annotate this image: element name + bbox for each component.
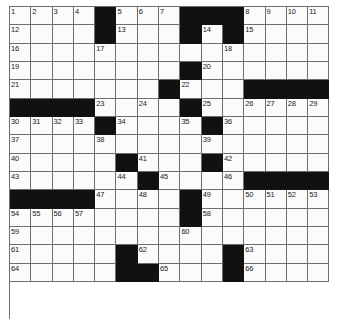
- crossword-cell[interactable]: 53: [308, 190, 329, 208]
- crossword-cell[interactable]: [95, 209, 116, 227]
- crossword-cell[interactable]: [202, 172, 223, 190]
- crossword-cell[interactable]: 14: [202, 25, 223, 43]
- crossword-cell[interactable]: [53, 172, 74, 190]
- crossword-cell[interactable]: [31, 227, 52, 245]
- crossword-cell[interactable]: [266, 25, 287, 43]
- crossword-cell[interactable]: [95, 227, 116, 245]
- crossword-cell[interactable]: 40: [10, 154, 31, 172]
- crossword-cell[interactable]: 33: [74, 117, 95, 135]
- crossword-cell[interactable]: [74, 227, 95, 245]
- crossword-cell[interactable]: [74, 154, 95, 172]
- crossword-cell[interactable]: [116, 227, 137, 245]
- crossword-cell[interactable]: [138, 25, 159, 43]
- crossword-cell[interactable]: [266, 62, 287, 80]
- crossword-cell[interactable]: [202, 245, 223, 263]
- crossword-cell[interactable]: 59: [10, 227, 31, 245]
- crossword-cell[interactable]: [244, 135, 265, 153]
- crossword-cell[interactable]: [53, 264, 74, 282]
- crossword-cell[interactable]: [244, 227, 265, 245]
- crossword-cell[interactable]: 54: [10, 209, 31, 227]
- crossword-cell[interactable]: [202, 80, 223, 98]
- crossword-cell[interactable]: 15: [244, 25, 265, 43]
- crossword-cell[interactable]: [116, 62, 137, 80]
- crossword-cell[interactable]: [244, 154, 265, 172]
- crossword-cell[interactable]: [287, 62, 308, 80]
- crossword-cell[interactable]: 35: [180, 117, 201, 135]
- crossword-cell[interactable]: [74, 62, 95, 80]
- crossword-cell[interactable]: [116, 209, 137, 227]
- crossword-cell[interactable]: 11: [308, 7, 329, 25]
- crossword-cell[interactable]: 31: [31, 117, 52, 135]
- crossword-cell[interactable]: [159, 135, 180, 153]
- crossword-cell[interactable]: [180, 245, 201, 263]
- crossword-cell[interactable]: [116, 135, 137, 153]
- crossword-cell[interactable]: 22: [180, 80, 201, 98]
- crossword-cell[interactable]: 43: [10, 172, 31, 190]
- crossword-cell[interactable]: [223, 209, 244, 227]
- crossword-cell[interactable]: [202, 44, 223, 62]
- crossword-cell[interactable]: 7: [159, 7, 180, 25]
- crossword-cell[interactable]: 47: [95, 190, 116, 208]
- crossword-cell[interactable]: [266, 117, 287, 135]
- crossword-cell[interactable]: 3: [53, 7, 74, 25]
- crossword-cell[interactable]: [74, 25, 95, 43]
- crossword-cell[interactable]: [308, 117, 329, 135]
- crossword-cell[interactable]: [53, 227, 74, 245]
- crossword-cell[interactable]: [138, 227, 159, 245]
- crossword-cell[interactable]: [223, 62, 244, 80]
- crossword-cell[interactable]: 50: [244, 190, 265, 208]
- crossword-cell[interactable]: [159, 227, 180, 245]
- crossword-cell[interactable]: 21: [10, 80, 31, 98]
- crossword-grid[interactable]: 1234567891011121314151617181920212223242…: [9, 6, 329, 319]
- crossword-cell[interactable]: 34: [116, 117, 137, 135]
- crossword-cell[interactable]: [53, 154, 74, 172]
- crossword-cell[interactable]: 16: [10, 44, 31, 62]
- crossword-cell[interactable]: [138, 80, 159, 98]
- crossword-cell[interactable]: [53, 135, 74, 153]
- crossword-cell[interactable]: 17: [95, 44, 116, 62]
- crossword-cell[interactable]: 48: [138, 190, 159, 208]
- crossword-cell[interactable]: [159, 117, 180, 135]
- crossword-cell[interactable]: [287, 117, 308, 135]
- crossword-cell[interactable]: [53, 245, 74, 263]
- crossword-cell[interactable]: 60: [180, 227, 201, 245]
- crossword-cell[interactable]: [223, 227, 244, 245]
- crossword-cell[interactable]: 57: [74, 209, 95, 227]
- crossword-cell[interactable]: 66: [244, 264, 265, 282]
- crossword-cell[interactable]: [31, 264, 52, 282]
- crossword-cell[interactable]: [138, 117, 159, 135]
- crossword-cell[interactable]: 46: [223, 172, 244, 190]
- crossword-cell[interactable]: [53, 25, 74, 43]
- crossword-cell[interactable]: 37: [10, 135, 31, 153]
- crossword-cell[interactable]: 58: [202, 209, 223, 227]
- crossword-cell[interactable]: [159, 25, 180, 43]
- crossword-cell[interactable]: 5: [116, 7, 137, 25]
- crossword-cell[interactable]: 28: [287, 99, 308, 117]
- crossword-cell[interactable]: [95, 172, 116, 190]
- crossword-cell[interactable]: 26: [244, 99, 265, 117]
- crossword-cell[interactable]: 12: [10, 25, 31, 43]
- crossword-cell[interactable]: [308, 227, 329, 245]
- crossword-cell[interactable]: 38: [95, 135, 116, 153]
- crossword-cell[interactable]: [53, 62, 74, 80]
- crossword-cell[interactable]: 4: [74, 7, 95, 25]
- crossword-cell[interactable]: [116, 44, 137, 62]
- crossword-cell[interactable]: [308, 135, 329, 153]
- crossword-cell[interactable]: [138, 62, 159, 80]
- crossword-cell[interactable]: [74, 135, 95, 153]
- crossword-cell[interactable]: 10: [287, 7, 308, 25]
- crossword-cell[interactable]: [53, 44, 74, 62]
- crossword-cell[interactable]: 19: [10, 62, 31, 80]
- crossword-cell[interactable]: 8: [244, 7, 265, 25]
- crossword-cell[interactable]: [266, 135, 287, 153]
- crossword-cell[interactable]: 6: [138, 7, 159, 25]
- crossword-cell[interactable]: 29: [308, 99, 329, 117]
- crossword-cell[interactable]: [159, 62, 180, 80]
- crossword-cell[interactable]: [138, 44, 159, 62]
- crossword-cell[interactable]: 51: [266, 190, 287, 208]
- crossword-cell[interactable]: 25: [202, 99, 223, 117]
- crossword-cell[interactable]: 55: [31, 209, 52, 227]
- crossword-cell[interactable]: 61: [10, 245, 31, 263]
- crossword-cell[interactable]: [266, 227, 287, 245]
- crossword-cell[interactable]: [308, 264, 329, 282]
